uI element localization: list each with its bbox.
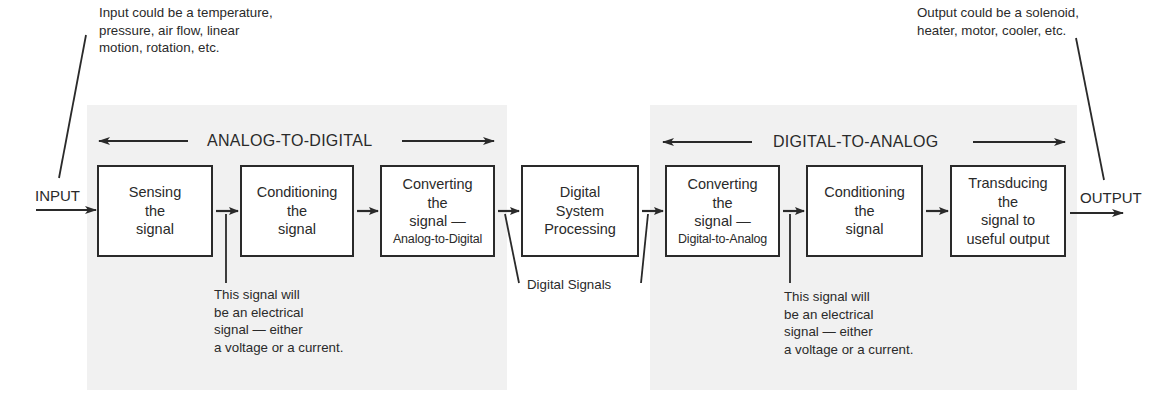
block-conditioning-digital: Conditioning the signal [806,165,923,257]
input-label: INPUT [35,187,80,204]
block-converting-d2a: Converting the signal — Digital-to-Analo… [665,165,780,257]
block-transducing: Transducing the signal to useful output [950,165,1066,257]
input-note: Input could be a temperature, pressure, … [99,4,273,57]
block-conditioning-analog: Conditioning the signal [240,165,354,257]
output-leader-line [1076,38,1104,180]
analog-to-digital-header: ANALOG-TO-DIGITAL [207,132,372,150]
digital-signals-left-leader [505,214,519,283]
digital-to-analog-header: DIGITAL-TO-ANALOG [773,133,938,151]
block-digital-processing: Digital System Processing [521,165,639,257]
output-label: OUTPUT [1080,189,1142,206]
electrical-signal-note-left: This signal will be an electrical signal… [214,286,343,356]
output-note: Output could be a solenoid, heater, moto… [917,4,1079,39]
digital-signals-right-leader [641,214,648,283]
digital-signals-label: Digital Signals [527,276,611,294]
block-sensing: Sensing the signal [97,165,213,257]
input-leader-line [59,35,86,178]
block-converting-a2d: Converting the signal — Analog-to-Digita… [380,165,495,257]
electrical-signal-note-right: This signal will be an electrical signal… [784,288,913,358]
